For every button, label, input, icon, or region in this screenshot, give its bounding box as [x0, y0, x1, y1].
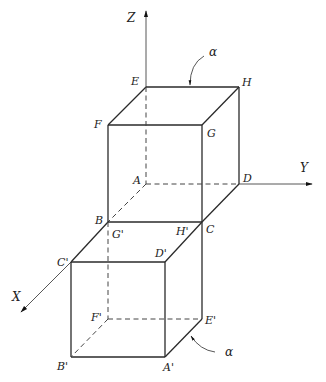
x-axis: [21, 262, 71, 312]
top-alpha-label: α: [209, 45, 217, 59]
upper-cube: [108, 87, 239, 222]
vertex-label-h-prime: H': [175, 225, 189, 238]
vertex-label-c-prime: C': [57, 256, 68, 269]
vertex-label-a: A: [132, 174, 141, 187]
vertex-label-a-prime: A': [162, 361, 174, 374]
vertex-label-g: G: [207, 127, 216, 140]
vertex-label-d: D: [242, 172, 252, 185]
vertex-label-d-prime: D': [154, 247, 167, 260]
vertex-label-b-prime: B': [56, 360, 68, 373]
vertex-label-e: E: [130, 75, 139, 88]
vertex-label-f: F: [93, 118, 102, 131]
x-axis-label: X: [11, 290, 21, 304]
top-alpha-leader: [190, 56, 204, 85]
vertex-label-c: C: [206, 223, 215, 236]
vertex-label-h: H: [241, 76, 252, 89]
vertex-label-b: B: [94, 214, 103, 227]
bottom-alpha-leader: [191, 336, 215, 352]
y-axis-label: Y: [300, 161, 309, 175]
vertex-label-f-prime: F': [90, 311, 102, 324]
lower-cube: [71, 222, 202, 357]
vertex-label-g-prime: G': [112, 228, 124, 241]
vertex-label-e-prime: E': [204, 314, 216, 327]
two-cubes-axis-diagram: Z Y X E H F G A D B C G' H' C' D' F' E' …: [0, 0, 326, 382]
z-axis-label: Z: [126, 11, 136, 25]
bottom-alpha-label: α: [225, 345, 233, 359]
